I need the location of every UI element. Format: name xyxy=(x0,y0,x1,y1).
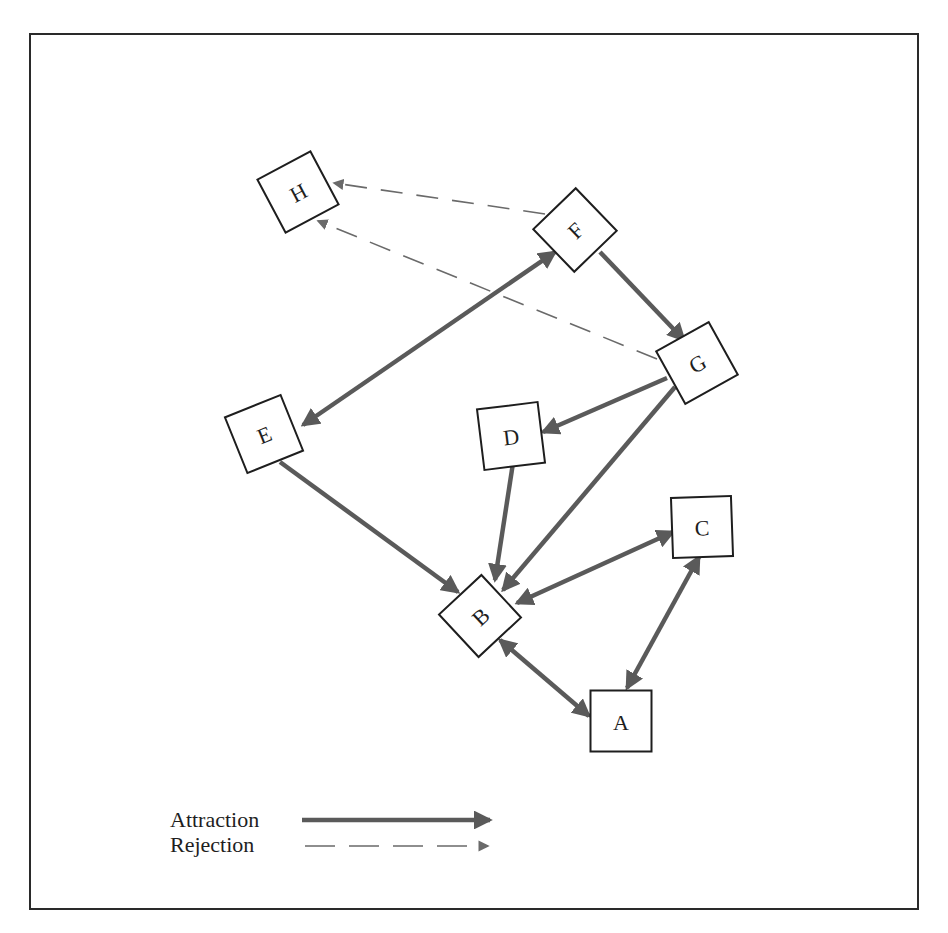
edge-attraction-e-b xyxy=(280,462,458,592)
node-label: A xyxy=(613,710,629,735)
nodes-layer: ABCDEFGH xyxy=(225,151,738,751)
node-label: D xyxy=(502,424,521,451)
node-e: E xyxy=(225,395,303,473)
edge-rejection-f-h xyxy=(334,183,545,214)
legend: Attraction Rejection xyxy=(170,807,490,857)
edge-attraction-a-c xyxy=(627,557,699,688)
node-h: H xyxy=(257,151,338,232)
node-d: D xyxy=(477,402,545,470)
edge-attraction-f-g xyxy=(600,252,684,340)
legend-label-attraction: Attraction xyxy=(170,807,259,832)
diagram-frame xyxy=(30,34,918,909)
legend-label-rejection: Rejection xyxy=(170,832,254,857)
node-a: A xyxy=(591,691,652,752)
edge-attraction-g-d xyxy=(543,378,667,432)
edge-attraction-e-f xyxy=(303,252,555,425)
node-label: C xyxy=(694,515,710,540)
edge-attraction-d-b xyxy=(495,463,513,580)
legend-item-rejection: Rejection xyxy=(170,832,488,857)
sociogram-diagram: ABCDEFGH Attraction Rejection xyxy=(0,0,948,933)
legend-item-attraction: Attraction xyxy=(170,807,490,832)
node-c: C xyxy=(671,496,733,558)
edge-attraction-b-a xyxy=(500,640,589,716)
